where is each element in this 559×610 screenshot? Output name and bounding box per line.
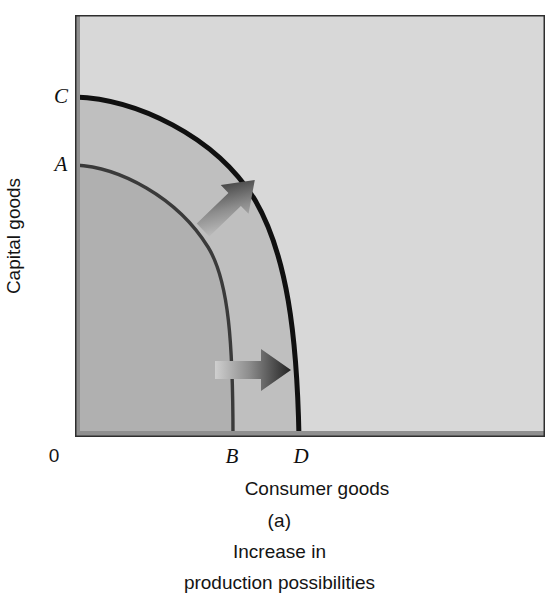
- point-label-d: D: [293, 444, 308, 469]
- point-label-c: C: [54, 84, 68, 109]
- point-label-b: B: [226, 444, 239, 469]
- point-label-a: A: [55, 152, 68, 177]
- y-axis-title: Capital goods: [3, 178, 25, 294]
- caption-panel-id: (a): [0, 505, 559, 536]
- origin-label: 0: [49, 445, 60, 467]
- figure-caption: (a) Increase in production possibilities: [0, 505, 559, 598]
- x-axis-title: Consumer goods: [245, 478, 390, 500]
- caption-line-2: production possibilities: [0, 567, 559, 598]
- plot-svg: [75, 15, 545, 437]
- production-possibilities-figure: Capital goods Consumer goods C A B D 0 (…: [0, 0, 559, 610]
- plot-area: [75, 15, 545, 437]
- caption-line-1: Increase in: [0, 536, 559, 567]
